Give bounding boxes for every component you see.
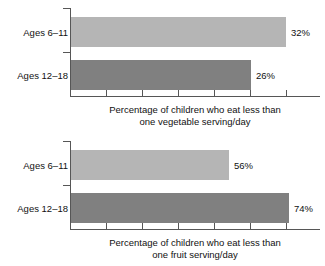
x-tick-vegetable-2	[142, 90, 143, 96]
category-label-vegetable-ages-6-11: Ages 6–11	[23, 27, 68, 38]
bar-vegetable-ages-6-11	[71, 17, 286, 47]
x-tick-fruit-5	[250, 223, 251, 229]
x-axis-caption-vegetable-line1: Percentage of children who eat less than	[70, 104, 320, 116]
value-label-vegetable-ages-6-11: 32%	[291, 27, 310, 38]
x-tick-fruit-1	[106, 223, 107, 229]
y-tick-fruit-1	[63, 185, 70, 186]
x-axis-caption-fruit-line2: one fruit serving/day	[70, 249, 320, 261]
x-tick-vegetable-5	[250, 90, 251, 96]
x-axis-caption-fruit-line1: Percentage of children who eat less than	[70, 237, 320, 249]
y-tick-fruit-0	[63, 141, 70, 142]
x-axis-line-vegetable	[70, 96, 320, 97]
category-label-fruit-ages-6-11: Ages 6–11	[23, 160, 68, 171]
x-tick-fruit-2	[142, 223, 143, 229]
plot-area-vegetable: Ages 6–11 Ages 12–18 32% 26% Percentage …	[0, 0, 325, 104]
x-tick-vegetable-6	[286, 90, 287, 96]
value-label-fruit-ages-12-18: 74%	[294, 203, 313, 214]
value-label-vegetable-ages-12-18: 26%	[256, 70, 275, 81]
bar-fruit-ages-6-11	[71, 150, 229, 180]
bar-fruit-ages-12-18	[71, 193, 289, 223]
y-tick-vegetable-0	[63, 8, 70, 9]
chart-vegetable-servings: Ages 6–11 Ages 12–18 32% 26% Percentage …	[0, 0, 325, 133]
category-label-vegetable-ages-12-18: Ages 12–18	[17, 70, 68, 81]
y-tick-vegetable-1	[63, 52, 70, 53]
x-tick-vegetable-3	[178, 90, 179, 96]
x-tick-fruit-3	[178, 223, 179, 229]
bar-vegetable-ages-12-18	[71, 60, 251, 90]
x-axis-caption-vegetable-line2: one vegetable serving/day	[70, 116, 320, 128]
category-label-fruit-ages-12-18: Ages 12–18	[17, 203, 68, 214]
x-axis-caption-vegetable: Percentage of children who eat less than…	[70, 104, 320, 127]
x-axis-caption-fruit: Percentage of children who eat less than…	[70, 237, 320, 260]
x-axis-line-fruit	[70, 229, 320, 230]
x-tick-vegetable-1	[106, 90, 107, 96]
x-tick-fruit-6	[286, 223, 287, 229]
chart-fruit-servings: Ages 6–11 Ages 12–18 56% 74% Percentage …	[0, 133, 325, 266]
x-tick-vegetable-4	[214, 90, 215, 96]
plot-area-fruit: Ages 6–11 Ages 12–18 56% 74% Percentage …	[0, 133, 325, 237]
value-label-fruit-ages-6-11: 56%	[234, 160, 253, 171]
x-tick-fruit-4	[214, 223, 215, 229]
